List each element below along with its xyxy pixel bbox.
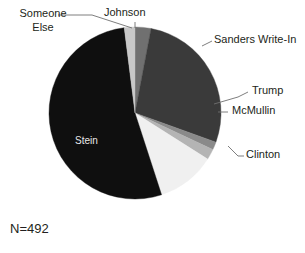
leader-line-clinton: [228, 146, 244, 156]
label-johnson: Johnson: [104, 6, 146, 19]
label-someone-else: Someone Else: [12, 6, 74, 34]
pie-chart-figure: Someone Else Johnson Sanders Write-In Tr…: [0, 0, 305, 253]
label-trump: Trump: [252, 84, 283, 97]
pie-slices: [49, 27, 221, 199]
label-mcmullin: McMullin: [232, 104, 275, 117]
label-clinton: Clinton: [246, 148, 280, 161]
leader-line-sanders-write-in: [202, 41, 212, 46]
sample-size-annotation: N=492: [10, 222, 49, 235]
label-stein: Stein: [75, 134, 98, 147]
label-sanders-write-in: Sanders Write-In: [214, 33, 296, 46]
